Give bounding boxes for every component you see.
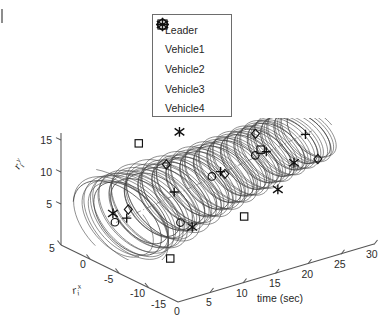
svg-text:rix: rix: [70, 281, 84, 298]
vertical-tick-label-1: 10: [40, 166, 52, 178]
legend-item-vehicle2[interactable]: Vehicle2: [161, 59, 225, 79]
legend-label-vehicle4: Vehicle4: [165, 102, 205, 114]
legend-item-vehicle4[interactable]: Vehicle4: [161, 98, 225, 118]
depth-tick-label-2: -5: [104, 273, 113, 285]
marker-vehicle3-2: [240, 213, 247, 220]
legend-label-vehicle3: Vehicle3: [165, 83, 205, 95]
trajectory-vehicle3: [84, 104, 331, 265]
time-tick-label-2: 10: [236, 287, 248, 299]
depth-tick-label-3: -10: [130, 287, 145, 299]
legend-box: Leader Vehicle1 Vehicle2 Vehicle3 Vehicl…: [152, 14, 232, 117]
depth-tick-label-1: 0: [80, 258, 86, 270]
legend-label-vehicle1: Vehicle1: [165, 43, 205, 55]
legend-item-vehicle1[interactable]: Vehicle1: [161, 40, 225, 60]
time-tick-label-4: 20: [302, 268, 314, 280]
vertical-axis-label: riy: [10, 156, 28, 173]
marker-vehicle3-0: [167, 255, 174, 262]
vertical-axis: 15 10 5 riy: [10, 133, 61, 245]
depth-tick-label-4: -15: [151, 298, 166, 310]
legend-label-vehicle2: Vehicle2: [165, 63, 205, 75]
svg-text:riy: riy: [10, 156, 28, 173]
marker-vehicle1-3: [273, 185, 283, 195]
legend-item-vehicle3[interactable]: Vehicle3: [161, 79, 225, 99]
depth-tick-label-0: 5: [49, 242, 55, 254]
time-axis: 0 5 10 15 20 25 30 time (sec): [174, 240, 378, 317]
trajectory-vehicle1: [88, 106, 331, 256]
vertical-tick-label-2: 15: [40, 134, 52, 146]
marker-vehicle1-2: [175, 127, 185, 137]
marker-vehicle3-1: [135, 140, 142, 147]
time-tick-label-1: 5: [206, 296, 212, 308]
figure-panel: 15 10 5 riy 5 0 -5 -10 -15 rix: [0, 0, 389, 331]
time-tick-label-3: 15: [269, 277, 281, 289]
time-tick-label-5: 25: [334, 258, 346, 270]
marker-vehicle2-0: [111, 218, 119, 226]
time-axis-label: time (sec): [257, 292, 303, 304]
trajectory-vehicle2: [82, 108, 336, 257]
time-tick-label-6: 30: [366, 248, 378, 260]
time-tick-label-0: 0: [174, 305, 180, 317]
trajectory-group: [73, 104, 336, 265]
vertical-tick-label-0: 5: [46, 198, 52, 210]
diamond-marker-icon: [153, 15, 172, 34]
depth-axis-label: rix: [70, 281, 84, 298]
marker-leader-4: [301, 130, 310, 139]
